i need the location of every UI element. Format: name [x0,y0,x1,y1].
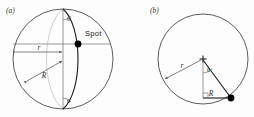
panel-a-R-label: R [41,71,47,80]
panel-a-spot-label: Spot [85,29,102,38]
panel-a: (a) r R θ θ Spot [6,6,113,109]
panel-a-caption: (a) [6,6,15,15]
panel-a-r-label: r [38,43,41,52]
panel-b-R-label: R [208,89,214,98]
panel-a-angle-bottom-label: θ [67,97,70,104]
panel-a-angle-top-label: θ [67,15,70,22]
panel-b-right-angle-marker [203,93,208,98]
figure-canvas: (a) r R θ θ Spot [0,0,254,117]
panel-b-r-label: r [181,61,184,70]
panel-a-meridian-arc [63,9,78,109]
panel-b-spot-marker [228,95,235,102]
panel-b-angle-label: θ [207,66,210,73]
panel-b: (b) r θ R [150,6,248,104]
figure-container: (a) r R θ θ Spot [0,0,254,117]
panel-a-back-meridian-arc [47,9,64,109]
panel-b-caption: (b) [150,6,159,15]
panel-a-spot-marker [75,41,82,48]
